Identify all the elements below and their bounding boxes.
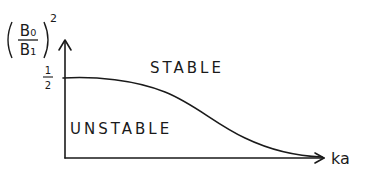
unstable-region-label: UNSTABLE	[70, 120, 172, 138]
stability-diagram: B₀ B₁ 2 1 2 STABLE UNSTABLE ka	[0, 0, 367, 172]
y-axis-label: B₀ B₁ 2	[8, 12, 57, 59]
y-label-exponent: 2	[50, 12, 57, 25]
y-tick-denominator: 2	[45, 80, 51, 91]
stable-region-label: STABLE	[150, 59, 224, 77]
y-tick-numerator: 1	[45, 65, 51, 76]
y-tick-half: 1 2	[43, 65, 53, 91]
stability-curve	[63, 78, 322, 157]
y-label-denominator: B₁	[20, 41, 36, 59]
y-label-numerator: B₀	[20, 22, 36, 40]
x-axis-label: ka	[331, 149, 350, 168]
